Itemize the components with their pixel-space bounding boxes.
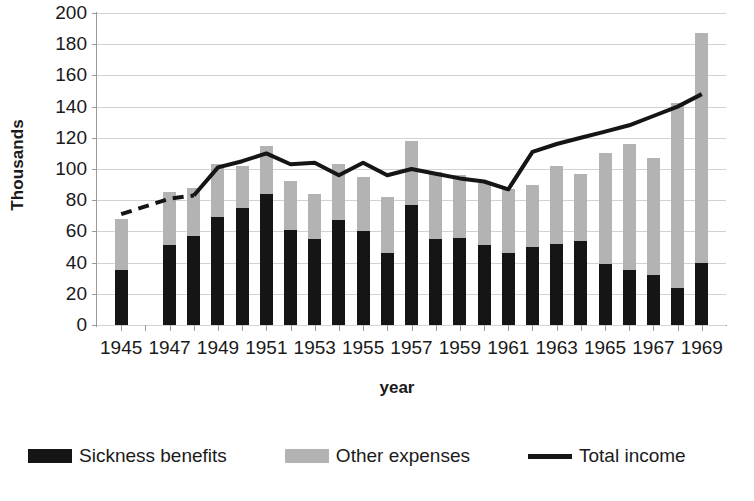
plot-area (97, 13, 726, 325)
legend-item[interactable]: Other expenses (285, 445, 470, 467)
x-axis-tick-label: 1955 (338, 337, 388, 359)
x-axis-tick-mark (121, 325, 122, 331)
total-income-line-solid-segment (194, 94, 702, 195)
y-axis-tick-label: 80 (9, 190, 87, 209)
y-axis-tick-label: 120 (9, 128, 87, 147)
legend-item[interactable]: Sickness benefits (28, 445, 227, 467)
x-axis-tick-mark (242, 325, 243, 331)
x-axis-tick-label: 1967 (628, 337, 678, 359)
y-axis-tick-mark (92, 231, 97, 232)
legend-swatch-total-income (528, 454, 572, 459)
y-axis-tick-mark (92, 13, 97, 14)
x-axis-tick-mark (412, 325, 413, 331)
x-axis-tick-mark (460, 325, 461, 331)
y-axis-tick-label: 20 (9, 284, 87, 303)
y-axis-tick-label: 140 (9, 97, 87, 116)
y-axis-tick-mark (92, 138, 97, 139)
x-axis-tick-label: 1949 (193, 337, 243, 359)
legend-label: Other expenses (336, 445, 470, 467)
y-axis-tick-mark (92, 325, 97, 326)
x-axis-tick-label: 1965 (580, 337, 630, 359)
x-axis-tick-mark (678, 325, 679, 331)
x-axis-tick-mark (339, 325, 340, 331)
x-axis-tick-mark (315, 325, 316, 331)
legend-swatch-other-expenses (285, 449, 329, 463)
x-axis-title-text: year (380, 378, 415, 397)
x-axis-tick-mark (145, 325, 146, 331)
x-axis-tick-label: 1969 (677, 337, 727, 359)
legend-swatch-sickness-benefits (28, 449, 72, 463)
y-axis-tick-label: 0 (9, 315, 87, 334)
x-axis-tick-mark (484, 325, 485, 331)
x-axis-tick-mark (557, 325, 558, 331)
y-axis-tick-mark (92, 263, 97, 264)
x-axis-tick-mark (291, 325, 292, 331)
legend-item[interactable]: Total income (528, 445, 686, 467)
x-axis-tick-mark (170, 325, 171, 331)
x-axis-tick-label: 1963 (532, 337, 582, 359)
x-axis-tick-label: 1961 (483, 337, 533, 359)
x-axis-tick-label: 1957 (387, 337, 437, 359)
y-axis-tick-mark (92, 75, 97, 76)
y-axis-tick-mark (92, 294, 97, 295)
y-axis-tick-label: 100 (9, 159, 87, 178)
x-axis-tick-mark (363, 325, 364, 331)
y-axis-tick-label: 60 (9, 221, 87, 240)
legend-label: Sickness benefits (79, 445, 227, 467)
y-axis-tick-label: 160 (9, 65, 87, 84)
chart-container: Thousands 200180160140120100806040200 19… (0, 0, 754, 501)
x-axis-tick-label: 1959 (435, 337, 485, 359)
legend-label: Total income (579, 445, 686, 467)
y-axis-tick-label: 40 (9, 253, 87, 272)
x-axis-tick-mark (218, 325, 219, 331)
y-axis-tick-mark (92, 107, 97, 108)
x-axis-tick-label: 1953 (290, 337, 340, 359)
x-axis-tick-mark (629, 325, 630, 331)
x-axis-tick-mark (436, 325, 437, 331)
x-axis-tick-label: 1945 (96, 337, 146, 359)
x-axis-tick-label: 1951 (241, 337, 291, 359)
x-axis-title: year (0, 378, 754, 398)
y-axis-tick-mark (92, 200, 97, 201)
y-axis-tick-label: 180 (9, 34, 87, 53)
x-axis-tick-mark (581, 325, 582, 331)
x-axis-tick-mark (532, 325, 533, 331)
x-axis-tick-mark (508, 325, 509, 331)
x-axis-tick-mark (194, 325, 195, 331)
y-axis-tick-label: 200 (9, 3, 87, 22)
x-axis-tick-mark (702, 325, 703, 331)
total-income-line-dashed-segment (121, 196, 194, 215)
chart-legend: Sickness benefitsOther expensesTotal inc… (0, 438, 754, 474)
y-axis-tick-mark (92, 169, 97, 170)
x-axis-tick-mark (387, 325, 388, 331)
x-axis-tick-label: 1947 (145, 337, 195, 359)
x-axis-tick-mark (653, 325, 654, 331)
x-axis-tick-mark (266, 325, 267, 331)
total-income-line (97, 13, 726, 325)
x-axis-tick-mark (605, 325, 606, 331)
y-axis-tick-mark (92, 44, 97, 45)
